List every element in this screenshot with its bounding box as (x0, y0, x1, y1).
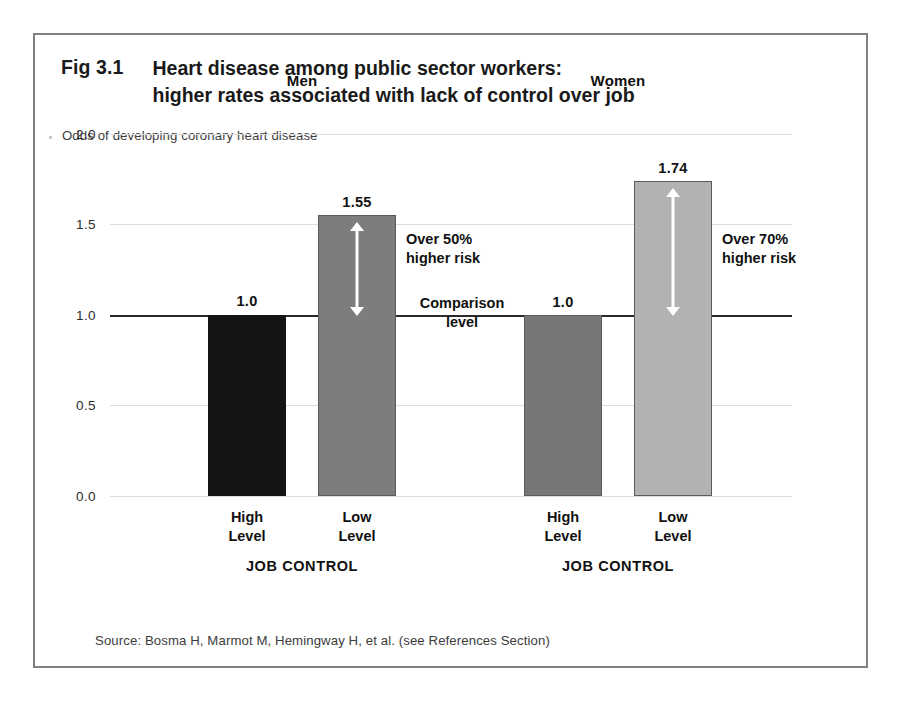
y-tick-label-1-5: 1.5 (76, 217, 96, 232)
x-label-men-low: Low Level (338, 508, 375, 546)
annotation-men-line-1: Over 50% (406, 230, 480, 249)
x-label-men-low-line-2: Level (338, 527, 375, 546)
bar-men-low-level[interactable]: 1.55 (318, 215, 396, 496)
y-tick-label-0-0: 0.0 (76, 489, 96, 504)
annotation-women-risk: Over 70% higher risk (722, 230, 796, 268)
bar-women-high-level[interactable]: 1.0 (524, 315, 602, 496)
page-title: Heart disease among public sector worker… (152, 55, 634, 109)
group-heading-women: Women (591, 72, 646, 89)
x-label-men-high-line-1: High (228, 508, 265, 527)
annotation-men-line-2: higher risk (406, 249, 480, 268)
title-line-2: higher rates associated with lack of con… (152, 82, 634, 109)
y-tick-label-0-5: 0.5 (76, 398, 96, 413)
x-label-men-low-line-1: Low (338, 508, 375, 527)
group-heading-men: Men (287, 72, 318, 89)
bar-value-men-high: 1.0 (236, 293, 257, 309)
risk-arrow-men-icon (350, 222, 364, 316)
annotation-men-risk: Over 50% higher risk (406, 230, 480, 268)
x-label-men-high: High Level (228, 508, 265, 546)
x-label-women-high-line-1: High (544, 508, 581, 527)
x-label-women-high-line-2: Level (544, 527, 581, 546)
x-label-women-low-line-1: Low (654, 508, 691, 527)
source-note: Source: Bosma H, Marmot M, Hemingway H, … (95, 633, 550, 648)
x-label-women-low-line-2: Level (654, 527, 691, 546)
x-axis-title-women: JOB CONTROL (562, 558, 674, 574)
gridline-0-0 (110, 496, 792, 497)
figure-frame: Fig 3.1 Heart disease among public secto… (33, 33, 868, 668)
y-tick-label-2-0: 2.0 (76, 127, 96, 142)
bar-women-low-level[interactable]: 1.74 (634, 181, 712, 496)
title-line-1: Heart disease among public sector worker… (152, 55, 634, 82)
x-label-women-low: Low Level (654, 508, 691, 546)
bar-value-men-low: 1.55 (342, 194, 371, 210)
annotation-women-line-2: higher risk (722, 249, 796, 268)
bar-value-women-low: 1.74 (658, 160, 687, 176)
x-axis-title-men: JOB CONTROL (246, 558, 358, 574)
x-label-men-high-line-2: Level (228, 527, 265, 546)
figure-number: Fig 3.1 (61, 55, 123, 79)
x-label-women-high: High Level (544, 508, 581, 546)
figure-title-block: Fig 3.1 Heart disease among public secto… (61, 55, 841, 109)
bar-men-high-level[interactable]: 1.0 (208, 315, 286, 496)
annotation-comparison-level: Comparison level (420, 294, 505, 332)
gridline-2-0 (110, 134, 792, 135)
annotation-women-line-1: Over 70% (722, 230, 796, 249)
risk-arrow-women-icon (666, 188, 680, 316)
bar-value-women-high: 1.0 (552, 294, 573, 310)
y-tick-label-1-0: 1.0 (76, 308, 96, 323)
chart-plot-area: 2.0 1.5 1.0 0.5 0.0 1.0 1.55 1.0 1.74 (110, 134, 792, 496)
comparison-level-line-1: Comparison (420, 294, 505, 313)
caption-bullet-icon (49, 136, 52, 139)
comparison-level-line-2: level (420, 313, 505, 332)
